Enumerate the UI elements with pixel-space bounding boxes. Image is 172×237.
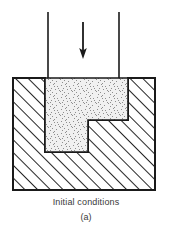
figure-root: Initial conditions (a) [0,0,172,237]
figure-caption: Initial conditions [0,196,172,208]
figure-subcaption-label: (a) [0,211,172,223]
